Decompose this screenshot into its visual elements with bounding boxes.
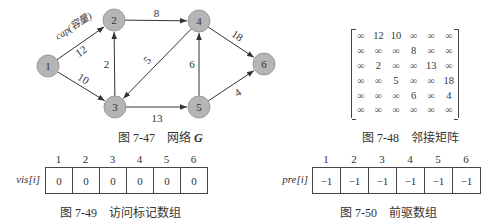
figure-caption-matrix: 图 7-48邻接矩阵 [362,128,459,146]
caption-text: 网络 [167,131,191,145]
matrix-cell: 13 [422,59,440,73]
array-index: 4 [126,153,153,165]
matrix-cell: ∞ [387,103,405,117]
matrix-cell: ∞ [440,29,458,43]
matrix-cell: ∞ [387,89,405,103]
vis-array: 000000 [45,167,208,194]
array-cell: 0 [181,168,207,193]
edge-4-6 [208,27,254,57]
figure-caption-network: 图 7-47网络 G [118,128,203,146]
matrix-cell: ∞ [440,44,458,58]
graph-edge-labels: 1210825136184 [73,7,246,125]
matrix-cell: ∞ [370,74,388,88]
matrix-cell: ∞ [422,74,440,88]
matrix-row: ∞∞5∞∞18 [352,73,458,88]
array-cell: 0 [154,168,181,193]
matrix-cell: ∞ [352,89,370,103]
array-cell: −1 [369,168,397,193]
array-cell: −1 [341,168,369,193]
caption-text: 前驱数组 [389,206,437,220]
matrix-cell: ∞ [352,59,370,73]
network-graph: 1210825136184 cap(容量) 123456 [0,0,300,130]
caption-symbol: G [194,131,203,145]
array-index: 1 [45,153,72,165]
matrix-cell: 8 [405,44,423,58]
matrix-cell: ∞ [370,89,388,103]
vis-array-indices: 123456 [45,153,207,165]
matrix-cell: 12 [370,29,388,43]
graph-node-label: 6 [261,58,267,70]
array-index: 6 [180,153,207,165]
array-cell: 0 [46,168,73,193]
vis-array-label: vis[i] [0,173,40,185]
matrix-cell: 6 [405,89,423,103]
edge-3-2 [114,32,115,96]
matrix-row: ∞∞∞8∞∞ [352,44,458,59]
matrix-cell: ∞ [405,59,423,73]
matrix-cell: ∞ [352,74,370,88]
matrix-cell: ∞ [405,74,423,88]
adjacency-matrix: ∞1210∞∞∞∞∞∞8∞∞∞2∞∞13∞∞∞5∞∞18∞∞∞6∞4∞∞∞∞∞∞ [351,29,459,118]
array-cell: 0 [100,168,127,193]
pre-array: −1−1−1−1−1−1 [312,167,481,194]
edge-capacity-label: 13 [152,112,164,124]
edge-5-6 [208,71,254,101]
array-cell: −1 [425,168,453,193]
caption-text: 邻接矩阵 [411,131,459,145]
graph-node-label: 3 [112,101,118,113]
graph-node-label: 1 [45,60,51,72]
caption-text: 访问标记数组 [109,206,181,220]
matrix-cell: ∞ [352,103,370,117]
graph-node-label: 5 [196,101,202,113]
matrix-cell: 5 [387,74,405,88]
edge-2-4 [125,20,187,21]
matrix-cell: 2 [370,59,388,73]
matrix-row: ∞∞∞∞∞∞ [352,103,458,118]
matrix-cell: ∞ [422,29,440,43]
matrix-cell: ∞ [370,103,388,117]
matrix-row: ∞2∞∞13∞ [352,59,458,74]
edge-capacity-label: 4 [232,86,244,99]
array-index: 3 [368,153,396,165]
array-cell: 0 [127,168,154,193]
matrix-cell: ∞ [370,44,388,58]
matrix-cell: ∞ [387,59,405,73]
edge-capacity-label: 2 [104,58,110,70]
matrix-cell: 10 [387,29,405,43]
caption-number: 图 7-48 [362,131,399,145]
array-index: 5 [424,153,452,165]
pre-array-indices: 123456 [312,153,480,165]
caption-number: 图 7-49 [60,206,97,220]
matrix-cell: ∞ [440,59,458,73]
array-index: 2 [72,153,99,165]
matrix-cell: ∞ [440,103,458,117]
edge-capacity-label: 18 [230,27,246,43]
matrix-cell: ∞ [405,29,423,43]
edge-capacity-label: 6 [189,58,195,70]
matrix-cell: ∞ [352,29,370,43]
edge-capacity-label: 5 [141,53,154,66]
matrix-cell: 4 [440,89,458,103]
graph-node-label: 2 [111,14,117,26]
edge-capacity-label: 12 [73,43,89,59]
matrix-cell: ∞ [387,44,405,58]
matrix-cell: ∞ [422,89,440,103]
array-index: 4 [396,153,424,165]
figure-caption-pre: 图 7-50前驱数组 [340,203,437,221]
pre-array-label: pre[i] [262,173,308,185]
matrix-cell: ∞ [422,103,440,117]
array-index: 5 [153,153,180,165]
edge-capacity-label: 8 [154,7,160,19]
figure-caption-vis: 图 7-49访问标记数组 [60,203,181,221]
array-cell: −1 [453,168,480,193]
graph-edges [57,20,254,107]
matrix-cell: ∞ [422,44,440,58]
edge-4-3 [123,29,191,99]
matrix-cell: 18 [440,74,458,88]
caption-number: 图 7-47 [118,131,155,145]
matrix-row: ∞∞∞6∞4 [352,88,458,103]
matrix-cell: ∞ [405,103,423,117]
array-index: 6 [452,153,480,165]
array-index: 3 [99,153,126,165]
graph-node-label: 4 [196,15,202,27]
